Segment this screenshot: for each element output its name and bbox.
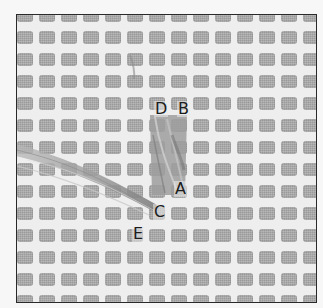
mesh-hole: [193, 31, 209, 44]
mesh-hole: [127, 295, 143, 303]
mesh-hole: [237, 295, 253, 303]
mesh-hole: [39, 141, 55, 154]
point-label-c: C: [153, 204, 166, 220]
mesh-hole: [83, 251, 99, 264]
mesh-hole: [259, 273, 275, 286]
mesh-hole: [281, 251, 297, 264]
mesh-hole: [105, 273, 121, 286]
mesh-hole: [83, 273, 99, 286]
mesh-hole: [39, 97, 55, 110]
mesh-hole: [215, 14, 231, 22]
mesh-hole: [193, 251, 209, 264]
mesh-hole: [83, 119, 99, 132]
mesh-hole: [171, 163, 187, 176]
mesh-hole: [259, 141, 275, 154]
mesh-hole: [193, 53, 209, 66]
mesh-hole: [237, 53, 253, 66]
mesh-hole: [237, 31, 253, 44]
mesh-hole: [171, 207, 187, 220]
mesh-hole: [39, 163, 55, 176]
canvas-mesh: [17, 15, 316, 302]
mesh-hole: [149, 53, 165, 66]
mesh-hole: [61, 207, 77, 220]
mesh-hole: [83, 207, 99, 220]
mesh-hole: [281, 185, 297, 198]
mesh-hole: [215, 119, 231, 132]
mesh-hole: [127, 75, 143, 88]
mesh-hole: [303, 97, 317, 110]
mesh-hole: [303, 75, 317, 88]
mesh-hole: [193, 97, 209, 110]
mesh-hole: [39, 295, 55, 303]
mesh-hole: [61, 53, 77, 66]
mesh-hole: [39, 251, 55, 264]
mesh-hole: [127, 119, 143, 132]
mesh-hole: [149, 251, 165, 264]
mesh-hole: [17, 229, 33, 242]
mesh-hole: [193, 14, 209, 22]
mesh-hole: [237, 97, 253, 110]
mesh-hole: [303, 185, 317, 198]
mesh-hole: [17, 31, 33, 44]
mesh-hole: [83, 53, 99, 66]
mesh-hole: [105, 229, 121, 242]
mesh-hole: [215, 273, 231, 286]
mesh-hole: [171, 14, 187, 22]
mesh-hole: [215, 251, 231, 264]
mesh-hole: [215, 31, 231, 44]
mesh-hole: [105, 75, 121, 88]
mesh-hole: [149, 14, 165, 22]
mesh-hole: [281, 119, 297, 132]
mesh-hole: [83, 14, 99, 22]
mesh-hole: [303, 14, 317, 22]
mesh-hole: [281, 207, 297, 220]
mesh-hole: [171, 251, 187, 264]
mesh-hole: [281, 273, 297, 286]
mesh-hole: [105, 185, 121, 198]
mesh-hole: [61, 229, 77, 242]
mesh-hole: [105, 295, 121, 303]
mesh-hole: [17, 97, 33, 110]
mesh-hole: [171, 295, 187, 303]
mesh-hole: [215, 97, 231, 110]
mesh-hole: [149, 295, 165, 303]
mesh-hole: [61, 119, 77, 132]
mesh-hole: [259, 207, 275, 220]
mesh-hole: [127, 14, 143, 22]
mesh-hole: [17, 207, 33, 220]
mesh-hole: [61, 295, 77, 303]
mesh-hole: [17, 273, 33, 286]
mesh-hole: [127, 53, 143, 66]
mesh-hole: [259, 185, 275, 198]
mesh-hole: [105, 141, 121, 154]
mesh-hole: [237, 229, 253, 242]
mesh-hole: [215, 75, 231, 88]
mesh-hole: [61, 273, 77, 286]
mesh-hole: [259, 251, 275, 264]
mesh-hole: [61, 251, 77, 264]
mesh-hole: [281, 14, 297, 22]
mesh-hole: [237, 75, 253, 88]
mesh-hole: [149, 75, 165, 88]
mesh-hole: [127, 273, 143, 286]
mesh-hole: [17, 185, 33, 198]
mesh-hole: [105, 251, 121, 264]
mesh-hole: [127, 251, 143, 264]
mesh-hole: [105, 97, 121, 110]
mesh-hole: [127, 185, 143, 198]
mesh-hole: [215, 163, 231, 176]
mesh-hole: [39, 185, 55, 198]
mesh-hole: [61, 97, 77, 110]
mesh-hole: [149, 273, 165, 286]
mesh-hole: [17, 75, 33, 88]
mesh-hole: [193, 295, 209, 303]
mesh-hole: [149, 229, 165, 242]
mesh-hole: [281, 141, 297, 154]
mesh-hole: [105, 31, 121, 44]
mesh-hole: [237, 207, 253, 220]
mesh-hole: [149, 185, 165, 198]
mesh-hole: [17, 53, 33, 66]
mesh-hole: [39, 75, 55, 88]
mesh-hole: [83, 97, 99, 110]
mesh-hole: [259, 75, 275, 88]
